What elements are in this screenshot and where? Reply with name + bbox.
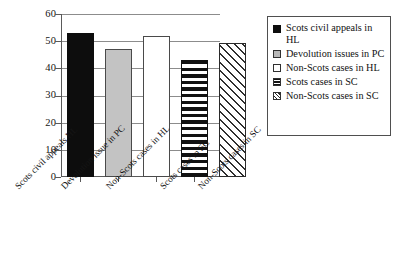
legend-item-scots-cases-sc: Scots cases in SC bbox=[273, 76, 386, 88]
bar-devolution-issue-pc bbox=[105, 49, 132, 177]
legend-swatch-solid-black-icon bbox=[273, 25, 281, 33]
legend-swatch-white-icon bbox=[273, 64, 281, 72]
x-axis-tick-mark-4 bbox=[194, 177, 195, 182]
legend-item-devolution-issues-pc: Devolution issues in PC bbox=[273, 48, 386, 60]
legend-item-non-scots-cases-sc: Non-Scots cases in SC bbox=[273, 90, 386, 102]
legend-label-scots-civil-appeals-hl: Scots civil appeals in HL bbox=[286, 22, 386, 45]
x-axis-tick-mark-3 bbox=[156, 177, 157, 182]
bar-non-scots-cases-hl bbox=[143, 36, 170, 177]
x-axis-tick-mark-1 bbox=[80, 177, 81, 182]
y-axis-tick-label-30: 30 bbox=[22, 90, 56, 101]
legend-item-non-scots-cases-hl: Non-Scots cases in HL bbox=[273, 62, 386, 74]
legend-swatch-diagonal-hatch-icon bbox=[273, 92, 281, 100]
legend-label-scots-cases-sc: Scots cases in SC bbox=[286, 76, 358, 88]
legend-swatch-gray-icon bbox=[273, 50, 281, 58]
y-axis-tick-mark-0 bbox=[55, 177, 61, 178]
bar-chart: 60 50 40 30 20 10 0 Scots civil appeals … bbox=[0, 0, 397, 262]
y-axis-tick-label-60: 60 bbox=[22, 9, 56, 20]
legend-item-scots-civil-appeals-hl: Scots civil appeals in HL bbox=[273, 22, 386, 45]
y-axis-tick-label-40: 40 bbox=[22, 63, 56, 74]
legend-swatch-horizontal-stripes-icon bbox=[273, 78, 281, 86]
legend-label-non-scots-cases-sc: Non-Scots cases in SC bbox=[286, 90, 379, 102]
y-axis-tick-label-20: 20 bbox=[22, 118, 56, 129]
legend-label-devolution-issues-pc: Devolution issues in PC bbox=[286, 48, 384, 60]
legend-label-non-scots-cases-hl: Non-Scots cases in HL bbox=[286, 62, 380, 74]
y-axis-tick-label-50: 50 bbox=[22, 36, 56, 47]
legend: Scots civil appeals in HL Devolution iss… bbox=[267, 16, 391, 136]
